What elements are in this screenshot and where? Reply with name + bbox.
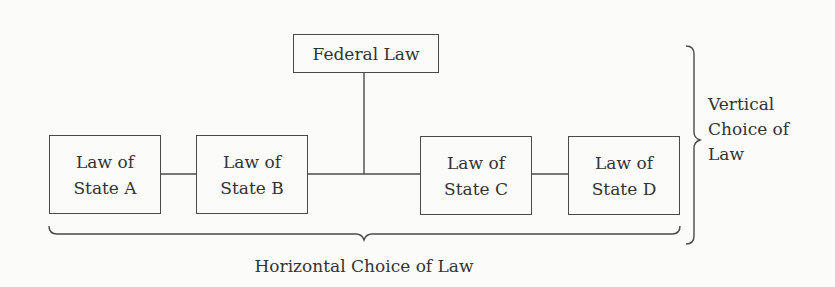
horizontal-choice-label: Horizontal Choice of Law: [244, 254, 484, 279]
state-d-line2: State D: [592, 176, 657, 202]
state-c-line2: State C: [444, 176, 508, 202]
vertical-brace-icon: [686, 46, 700, 244]
state-d-line1: Law of: [592, 150, 657, 176]
state-b-line1: Law of: [220, 149, 283, 175]
state-b-box: Law of State B: [196, 135, 308, 214]
state-c-line1: Law of: [444, 150, 508, 176]
state-a-line1: Law of: [73, 149, 136, 175]
vertical-label-line2: Choice of: [708, 117, 789, 142]
state-b-line2: State B: [220, 175, 283, 201]
vertical-label-line3: Law: [708, 142, 789, 167]
vertical-label-line1: Vertical: [708, 92, 789, 117]
state-a-box: Law of State A: [49, 135, 161, 214]
state-c-box: Law of State C: [420, 136, 532, 215]
horizontal-brace-icon: [49, 226, 680, 240]
federal-law-box: Federal Law: [293, 34, 439, 73]
choice-of-law-diagram: Federal Law Law of State A Law of State …: [0, 0, 835, 287]
state-d-box: Law of State D: [568, 136, 680, 215]
state-a-line2: State A: [73, 175, 136, 201]
federal-law-label: Federal Law: [313, 41, 420, 67]
vertical-choice-label: Vertical Choice of Law: [708, 92, 789, 167]
